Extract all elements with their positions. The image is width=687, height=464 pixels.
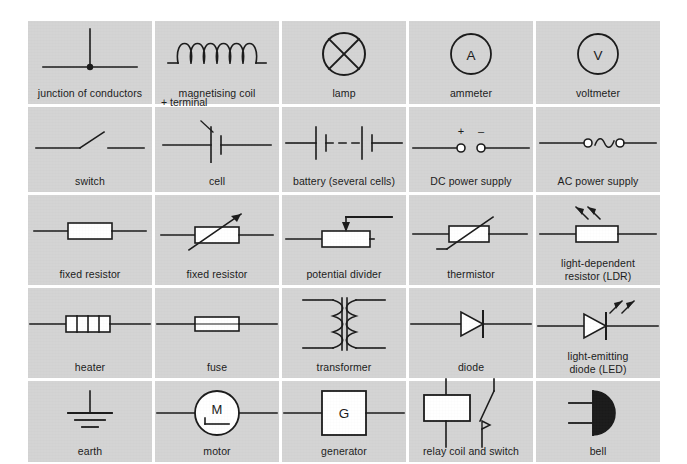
symbol-cell-earth: earth	[28, 381, 152, 462]
voltmeter-label: voltmeter	[536, 87, 660, 105]
bell-symbol-icon	[536, 381, 660, 445]
symbol-grid: junction of conductorsmagnetising coilla…	[28, 21, 660, 450]
switch-symbol-icon	[28, 107, 152, 175]
diode-symbol-icon	[409, 288, 533, 361]
symbol-cell-magnetising-coil: magnetising coil	[155, 21, 279, 104]
dc-power-supply-symbol-icon: +–	[409, 107, 533, 175]
ac-power-supply-symbol-icon	[536, 107, 660, 175]
cell-label: cell	[155, 175, 279, 193]
transformer-label: transformer	[282, 361, 406, 379]
symbol-cell-ac-power-supply: AC power supply	[536, 107, 660, 192]
fixed-resistor-symbol-icon	[28, 195, 152, 268]
motor-label: motor	[155, 445, 279, 463]
fixed-resistor-label: fixed resistor	[28, 268, 152, 286]
junction-of-conductors-symbol-icon	[28, 21, 152, 87]
symbol-cell-thermistor: thermistor	[409, 195, 533, 285]
ammeter-symbol-icon: A	[409, 21, 533, 87]
symbol-cell-ldr: light-dependentresistor (LDR)	[536, 195, 660, 285]
motor-symbol-icon: M	[155, 381, 279, 445]
circuit-symbols-sheet: junction of conductorsmagnetising coilla…	[0, 0, 687, 464]
symbol-cell-junction-of-conductors: junction of conductors	[28, 21, 152, 104]
svg-text:M: M	[212, 402, 223, 417]
svg-text:G: G	[339, 406, 350, 421]
symbol-cell-voltmeter: Vvoltmeter	[536, 21, 660, 104]
symbol-cell-led: light-emittingdiode (LED)	[536, 288, 660, 378]
heater-label: heater	[28, 361, 152, 379]
symbol-cell-variable-resistor: fixed resistor	[155, 195, 279, 285]
lamp-label: lamp	[282, 87, 406, 105]
annotation-plus-terminal: + terminal	[161, 96, 207, 108]
diode-label: diode	[409, 361, 533, 379]
junction-of-conductors-label: junction of conductors	[28, 87, 152, 105]
symbol-cell-battery: battery (several cells)	[282, 107, 406, 192]
relay-label: relay coil and switch	[409, 445, 533, 463]
generator-label: generator	[282, 445, 406, 463]
symbol-cell-bell: bell	[536, 381, 660, 462]
svg-text:–: –	[478, 125, 485, 137]
battery-symbol-icon	[282, 107, 406, 175]
svg-text:+: +	[458, 125, 464, 137]
led-symbol-icon	[536, 288, 660, 350]
potential-divider-label: potential divider	[282, 268, 406, 286]
fuse-symbol-icon	[155, 288, 279, 361]
relay-symbol-icon	[409, 381, 533, 445]
symbol-cell-cell: + terminalcell	[155, 107, 279, 192]
ac-power-supply-label: AC power supply	[536, 175, 660, 193]
magnetising-coil-symbol-icon	[155, 21, 279, 87]
generator-symbol-icon: G	[282, 381, 406, 445]
transformer-symbol-icon	[282, 288, 406, 361]
symbol-cell-diode: diode	[409, 288, 533, 378]
symbol-cell-fixed-resistor: fixed resistor	[28, 195, 152, 285]
fuse-label: fuse	[155, 361, 279, 379]
svg-text:A: A	[466, 47, 475, 62]
variable-resistor-symbol-icon	[155, 195, 279, 268]
earth-label: earth	[28, 445, 152, 463]
variable-resistor-label: fixed resistor	[155, 268, 279, 286]
ldr-symbol-icon	[536, 195, 660, 257]
ammeter-label: ammeter	[409, 87, 533, 105]
symbol-cell-lamp: lamp	[282, 21, 406, 104]
symbol-cell-motor: Mmotor	[155, 381, 279, 462]
battery-label: battery (several cells)	[282, 175, 406, 193]
symbol-cell-potential-divider: potential divider	[282, 195, 406, 285]
symbol-cell-ammeter: Aammeter	[409, 21, 533, 104]
voltmeter-symbol-icon: V	[536, 21, 660, 87]
lamp-symbol-icon	[282, 21, 406, 87]
symbol-cell-dc-power-supply: +–DC power supply	[409, 107, 533, 192]
switch-label: switch	[28, 175, 152, 193]
led-label: light-emittingdiode (LED)	[536, 350, 660, 378]
dc-power-supply-label: DC power supply	[409, 175, 533, 193]
symbol-cell-transformer: transformer	[282, 288, 406, 378]
symbol-cell-heater: heater	[28, 288, 152, 378]
thermistor-label: thermistor	[409, 268, 533, 286]
symbol-cell-relay: relay coil and switch	[409, 381, 533, 462]
ldr-label: light-dependentresistor (LDR)	[536, 257, 660, 285]
earth-symbol-icon	[28, 381, 152, 445]
bell-label: bell	[536, 445, 660, 463]
symbol-cell-fuse: fuse	[155, 288, 279, 378]
thermistor-symbol-icon	[409, 195, 533, 268]
cell-symbol-icon	[155, 107, 279, 175]
potential-divider-symbol-icon	[282, 195, 406, 268]
svg-text:V: V	[593, 47, 602, 62]
heater-symbol-icon	[28, 288, 152, 361]
symbol-cell-generator: Ggenerator	[282, 381, 406, 462]
symbol-cell-switch: switch	[28, 107, 152, 192]
